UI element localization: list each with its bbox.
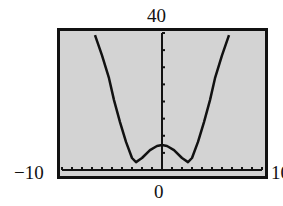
xmax-label: 10 bbox=[271, 163, 283, 182]
ymin-label: 0 bbox=[154, 182, 164, 201]
ymax-label: 40 bbox=[147, 6, 166, 25]
xmin-label: −10 bbox=[14, 163, 44, 182]
